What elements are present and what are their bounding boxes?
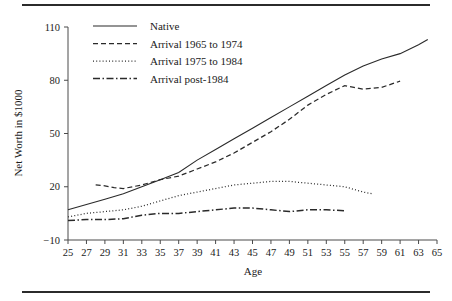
series-line-arrival-1975-to-1984 bbox=[68, 181, 372, 217]
x-tick-label: 39 bbox=[192, 247, 203, 258]
x-tick-label: 49 bbox=[284, 247, 295, 258]
x-tick-label: 59 bbox=[376, 247, 387, 258]
chart-svg: −10205080110 252729313335373941434547495… bbox=[0, 0, 452, 301]
x-tick-labels: 2527293133353739414345474951535557596163… bbox=[63, 247, 443, 258]
y-tick-label: 50 bbox=[50, 128, 61, 139]
legend-label: Arrival 1975 to 1984 bbox=[150, 55, 243, 67]
x-tick-label: 55 bbox=[340, 247, 351, 258]
x-tick-label: 33 bbox=[137, 247, 148, 258]
y-axis-title: Net Worth in $1000 bbox=[12, 89, 24, 177]
x-tick-label: 51 bbox=[303, 247, 314, 258]
y-tick-label: 110 bbox=[45, 22, 60, 33]
series-line-arrival-post-1984 bbox=[68, 208, 345, 220]
chart-legend: NativeArrival 1965 to 1974Arrival 1975 t… bbox=[93, 20, 243, 85]
legend-label: Arrival post-1984 bbox=[150, 73, 229, 85]
legend-label: Native bbox=[150, 20, 179, 32]
series-line-arrival-1965-to-1974 bbox=[96, 81, 400, 188]
x-tick-label: 43 bbox=[229, 247, 240, 258]
x-tick-label: 25 bbox=[63, 247, 74, 258]
series-lines bbox=[68, 39, 428, 220]
x-tick-label: 63 bbox=[413, 247, 424, 258]
y-tick-marks bbox=[64, 27, 68, 240]
x-tick-label: 31 bbox=[118, 247, 129, 258]
x-axis-title: Age bbox=[244, 265, 262, 277]
x-tick-label: 35 bbox=[155, 247, 166, 258]
x-tick-label: 61 bbox=[395, 247, 406, 258]
y-tick-label: 80 bbox=[50, 75, 61, 86]
x-tick-label: 37 bbox=[173, 247, 184, 258]
x-tick-label: 27 bbox=[81, 247, 92, 258]
x-tick-label: 29 bbox=[100, 247, 111, 258]
y-tick-label: 20 bbox=[50, 181, 61, 192]
x-tick-label: 65 bbox=[432, 247, 443, 258]
y-tick-labels: −10205080110 bbox=[44, 22, 60, 246]
y-tick-label: −10 bbox=[44, 235, 60, 246]
x-tick-label: 47 bbox=[266, 247, 277, 258]
legend-label: Arrival 1965 to 1974 bbox=[150, 38, 243, 50]
line-chart-figure: −10205080110 252729313335373941434547495… bbox=[0, 0, 452, 301]
x-tick-label: 45 bbox=[247, 247, 258, 258]
x-tick-label: 41 bbox=[210, 247, 221, 258]
x-tick-marks bbox=[68, 240, 437, 244]
x-tick-label: 57 bbox=[358, 247, 369, 258]
x-tick-label: 53 bbox=[321, 247, 332, 258]
